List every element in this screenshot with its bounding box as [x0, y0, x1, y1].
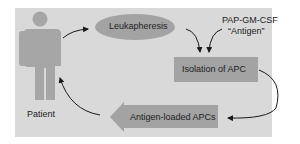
- patient-label: Patient: [27, 109, 55, 119]
- antigen-loaded-label: Antigen-loaded APCs: [130, 112, 216, 122]
- isolation-label: Isolation of APC: [182, 64, 246, 74]
- leukapheresis-label: Leukapheresis: [109, 21, 168, 31]
- antigen-label-line1: PAP-GM-CSF: [222, 15, 278, 25]
- patient-figure-icon: [19, 12, 61, 101]
- antigen-label-line2: “Antigen”: [228, 26, 265, 36]
